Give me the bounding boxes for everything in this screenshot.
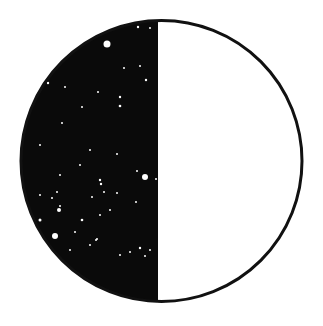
speckle [149,249,151,251]
speckle [137,26,139,28]
speckle [119,254,121,256]
speckle [79,164,81,166]
speckle [149,27,151,29]
speckle [56,191,58,193]
speckle [74,231,76,233]
speckle [61,122,63,124]
speckle [81,106,83,108]
speckle [64,86,66,88]
speckle [99,214,101,216]
speckle [104,41,111,48]
speckle [97,91,99,93]
speckle [39,194,41,196]
speckle [135,201,137,203]
speckle [59,205,61,207]
speckle [89,244,91,246]
speckle [39,219,42,222]
speckle [109,209,111,211]
speckle [136,170,138,172]
speckle [91,196,93,198]
speckle [57,208,61,212]
speckle [95,239,97,241]
speckle [119,96,121,98]
speckle [123,67,125,69]
speckle [139,247,141,249]
speckle [142,174,148,180]
speckle [39,144,41,146]
speckle [99,179,101,181]
speckle [59,174,61,176]
speckle [52,233,58,239]
speckle [145,79,147,81]
speckle [81,219,84,222]
speckle [100,183,102,185]
speckle [139,65,141,67]
speckle [103,191,105,193]
speckle [119,105,122,108]
speckle [69,249,71,251]
speckle [116,153,118,155]
speckle [144,255,146,257]
speckle [129,251,131,253]
speckle [89,149,91,151]
speckle [47,82,49,84]
speckle [116,192,118,194]
speckle [155,178,157,180]
speckle [51,197,53,199]
half-circle-figure [0,0,323,326]
